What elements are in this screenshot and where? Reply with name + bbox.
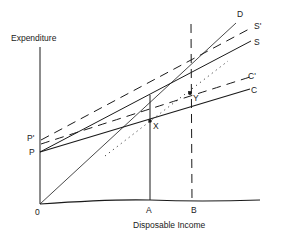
marker-b-label: B: [191, 206, 197, 215]
origin-label: 0: [35, 208, 40, 217]
label-c: C: [251, 86, 257, 95]
label-s-prime: S': [254, 22, 261, 31]
label-c-prime: C': [248, 72, 256, 81]
line-c-prime: [41, 77, 250, 144]
p-prime-label: P': [27, 134, 34, 143]
line-c: [40, 89, 250, 152]
x-axis-title: Disposable Income: [133, 221, 205, 230]
point-y: [188, 91, 192, 95]
y-axis-title: Expenditure: [11, 34, 56, 43]
vertical-b: [191, 24, 192, 201]
point-y-label: Y: [193, 94, 199, 103]
point-x-label: X: [153, 122, 159, 131]
line-d: [40, 23, 236, 204]
marker-a-label: A: [146, 206, 152, 215]
line-s: [40, 41, 251, 152]
point-x: [148, 119, 152, 123]
label-s: S: [254, 38, 260, 47]
line-s-prime: [41, 28, 251, 140]
income-expenditure-diagram: Expenditure Disposable Income 0 P' P D S…: [0, 0, 294, 238]
p-label: P: [29, 148, 35, 157]
x-axis: [40, 200, 260, 204]
label-d: D: [237, 10, 243, 19]
